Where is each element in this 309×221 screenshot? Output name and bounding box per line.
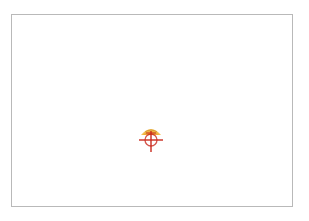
blank-canvas-frame	[11, 14, 293, 207]
crosshair-dome-icon	[137, 123, 165, 153]
